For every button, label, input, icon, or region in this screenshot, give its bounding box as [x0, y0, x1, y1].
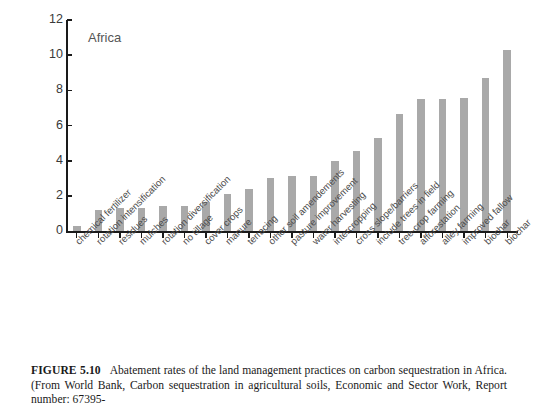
figure-caption: FIGURE 5.10Abatement rates of the land m…: [31, 364, 507, 403]
y-axis-tick-label: 0: [39, 223, 63, 237]
figure-chart: t CO2e ha-1year-1 Africa 024681012 chemi…: [0, 0, 535, 360]
x-axis-category-labels: chemical fertilizerrotation intensificat…: [66, 239, 535, 359]
bar: [73, 226, 81, 231]
y-axis-tick-label: 8: [39, 82, 63, 96]
y-axis-title: t CO2e ha-1year-1: [14, 0, 32, 36]
y-axis-tick-label: 4: [39, 153, 63, 167]
y-axis-tick-label: 10: [39, 47, 63, 61]
figure-caption-text: Abatement rates of the land management p…: [31, 364, 507, 403]
y-axis-tick-label: 12: [39, 12, 63, 26]
y-axis-tick-label: 2: [39, 188, 63, 202]
figure-caption-label: FIGURE 5.10: [31, 364, 101, 377]
y-axis-tick-label: 6: [39, 118, 63, 132]
